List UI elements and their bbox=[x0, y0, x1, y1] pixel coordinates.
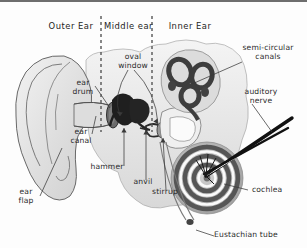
label-eustachian-tube: Eustachian tube bbox=[214, 231, 294, 240]
label-oval-window: oval window bbox=[111, 53, 155, 70]
section-heading-outer-ear: Outer Ear bbox=[36, 22, 106, 31]
section-heading-middle-ear: Middle ear bbox=[104, 22, 152, 31]
label-cochlea: cochlea bbox=[252, 186, 298, 195]
ear-diagram-figure: Outer Ear Middle ear Inner Ear ear drum … bbox=[0, 0, 307, 248]
label-hammer: hammer bbox=[86, 163, 128, 172]
label-ear-flap: ear flap bbox=[11, 188, 41, 205]
cochlea-spiral bbox=[171, 142, 243, 214]
label-semi-circular-canals: semi-circular canals bbox=[236, 44, 300, 61]
label-ear-drum: ear drum bbox=[66, 79, 100, 96]
label-stirrup: stirrup bbox=[145, 188, 185, 197]
label-auditory-nerve: auditory nerve bbox=[238, 88, 284, 105]
ear-anatomy-illustration bbox=[0, 0, 307, 248]
label-anvil: anvil bbox=[126, 178, 160, 187]
section-heading-inner-ear: Inner Ear bbox=[157, 22, 223, 31]
label-ear-canal: ear canal bbox=[64, 128, 98, 145]
